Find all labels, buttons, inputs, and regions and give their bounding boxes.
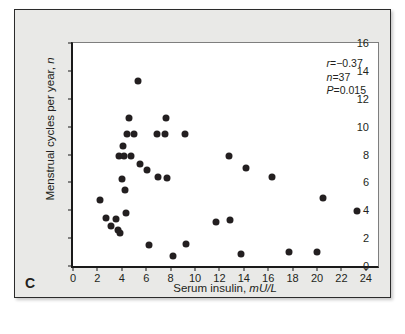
x-axis-title: Serum insulin, mU/L (71, 282, 379, 294)
panel-label: C (25, 275, 35, 291)
y-axis-tick-label: 2 (363, 232, 369, 244)
data-point (127, 152, 134, 159)
data-point (183, 241, 190, 248)
data-point (161, 130, 168, 137)
y-axis-tick-label: 0 (363, 260, 369, 272)
x-axis-tick (268, 266, 269, 271)
x-axis-tick (317, 266, 318, 271)
data-point (123, 210, 130, 217)
y-axis-tick (68, 182, 73, 183)
data-point (227, 217, 234, 224)
data-point (314, 249, 321, 256)
x-axis-tick (73, 266, 74, 271)
x-axis-tick (341, 266, 342, 271)
y-axis-tick (68, 126, 73, 127)
r-value: =−0.37 (330, 57, 363, 69)
data-point (107, 222, 114, 229)
x-axis-tick (97, 266, 98, 271)
p-value: =0.015 (334, 84, 366, 96)
y-axis-title: Menstrual cycles per year, n (44, 16, 56, 242)
x-axis-tick (170, 266, 171, 271)
data-point (163, 175, 170, 182)
figure-panel: 024681012141618202224 0246810121416 r=−0… (14, 9, 391, 298)
y-axis-tick-label: 16 (357, 37, 369, 49)
y-axis-tick (68, 70, 73, 71)
data-point (119, 175, 126, 182)
y-axis-tick-label: 8 (363, 149, 369, 161)
data-point (137, 160, 144, 167)
statistics-annotation: r=−0.37 n=37 P=0.015 (327, 57, 366, 98)
data-point (354, 207, 361, 214)
n-value: =37 (332, 71, 350, 83)
data-point (116, 230, 123, 237)
y-axis-units: n (44, 57, 56, 63)
x-axis-tick (219, 266, 220, 271)
data-point (134, 77, 141, 84)
data-point (226, 152, 233, 159)
data-point (320, 194, 327, 201)
y-axis-tick-label: 10 (357, 121, 369, 133)
p-symbol: P (327, 84, 334, 96)
x-axis-tick (292, 266, 293, 271)
x-axis-tick (146, 266, 147, 271)
data-point (126, 115, 133, 122)
data-point (238, 251, 245, 258)
x-axis-tick (243, 266, 244, 271)
data-point (112, 216, 119, 223)
data-point (162, 115, 169, 122)
data-point (154, 130, 161, 137)
data-point (285, 249, 292, 256)
y-axis-tick (68, 154, 73, 155)
y-axis-tick-label: 4 (363, 204, 369, 216)
y-axis-title-text: Menstrual cycles per year, (44, 67, 56, 201)
y-axis-tick (68, 98, 73, 99)
data-point (96, 197, 103, 204)
x-axis-title-text: Serum insulin, (173, 282, 246, 294)
data-point (144, 166, 151, 173)
data-point (212, 219, 219, 226)
sample-size-stat: n=37 (327, 71, 366, 85)
data-point (122, 187, 129, 194)
correlation-stat: r=−0.37 (327, 57, 366, 71)
y-axis-tick (68, 43, 73, 44)
data-point (181, 130, 188, 137)
plot-area: 024681012141618202224 0246810121416 r=−0… (71, 42, 379, 268)
data-point (243, 164, 250, 171)
data-point (155, 173, 162, 180)
data-point (170, 253, 177, 260)
y-axis-tick-label: 6 (363, 176, 369, 188)
x-axis-tick (195, 266, 196, 271)
y-axis-tick (68, 238, 73, 239)
data-point (268, 173, 275, 180)
x-axis-tick (121, 266, 122, 271)
p-value-stat: P=0.015 (327, 84, 366, 98)
data-point (120, 143, 127, 150)
data-point (102, 214, 109, 221)
y-axis-tick (68, 210, 73, 211)
y-axis-tick (68, 266, 73, 267)
x-axis-units: mU/L (249, 282, 276, 294)
data-point (131, 130, 138, 137)
data-point (145, 242, 152, 249)
